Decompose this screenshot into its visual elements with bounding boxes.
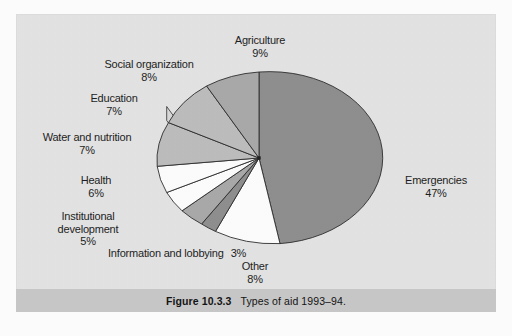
pie-label-other-name: Other: [224, 260, 286, 273]
pie-label-agriculture: Agriculture 9%: [212, 34, 308, 59]
pie-label-institutional-development-line2: development: [29, 223, 147, 236]
pie-label-emergencies: Emergencies 47%: [388, 174, 484, 199]
pie-label-information-and-lobbying-pct: 3%: [231, 247, 247, 259]
pie-label-agriculture-pct: 9%: [212, 47, 308, 60]
pie-label-information-and-lobbying: Information and lobbying3%: [108, 247, 234, 260]
pie-label-social-organization: Social organization 8%: [79, 58, 219, 83]
pie-label-water-and-nutrition-name: Water and nutrition: [24, 131, 150, 144]
pie-label-education-name: Education: [62, 92, 166, 105]
pie-center-marker: [257, 156, 260, 159]
pie-label-agriculture-name: Agriculture: [212, 34, 308, 47]
figure-caption: Figure 10.3.3Types of aid 1993–94.: [166, 295, 346, 307]
pie-label-information-and-lobbying-line1: Information and: [108, 247, 181, 259]
pie-label-institutional-development-line1: Institutional: [29, 210, 147, 223]
pie-label-emergencies-pct: 47%: [388, 187, 484, 200]
figure-root: Agriculture 9% Social organization 8% Ed…: [0, 0, 512, 336]
pie-label-other-pct: 8%: [224, 273, 286, 286]
pie-label-institutional-development-pct: 5%: [29, 235, 147, 248]
figure-number: Figure 10.3.3: [166, 295, 232, 307]
pie-top-face: [157, 72, 383, 244]
pie-label-education: Education 7%: [62, 92, 166, 117]
pie-label-other: Other 8%: [224, 260, 286, 285]
pie-label-emergencies-name: Emergencies: [388, 174, 484, 187]
pie-label-health-pct: 6%: [57, 187, 135, 200]
pie-label-health-name: Health: [57, 174, 135, 187]
figure-caption-bar: Figure 10.3.3Types of aid 1993–94.: [16, 289, 496, 312]
pie-label-health: Health 6%: [57, 174, 135, 199]
pie-slice-emergencies: [259, 72, 383, 244]
pie-label-education-pct: 7%: [62, 105, 166, 118]
pie-label-information-and-lobbying-line2: lobbying: [184, 247, 223, 259]
pie-label-water-and-nutrition-pct: 7%: [24, 144, 150, 157]
pie-label-institutional-development: Institutional development 5%: [29, 210, 147, 248]
pie-chart-area: Agriculture 9% Social organization 8% Ed…: [16, 14, 496, 282]
pie-label-social-organization-pct: 8%: [79, 71, 219, 84]
figure-panel: Agriculture 9% Social organization 8% Ed…: [16, 14, 496, 312]
pie-label-social-organization-name: Social organization: [79, 58, 219, 71]
figure-title: Types of aid 1993–94.: [241, 295, 346, 307]
pie-label-water-and-nutrition: Water and nutrition 7%: [24, 131, 150, 156]
